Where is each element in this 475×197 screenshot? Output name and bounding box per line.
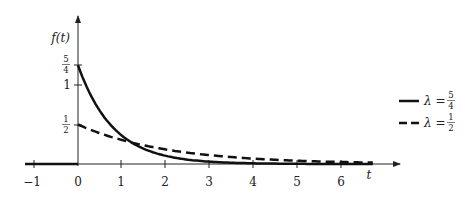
legend-item-lambda-1-2: λ = 1 2 bbox=[399, 112, 455, 133]
legend: λ = 5 4 λ = 1 2 bbox=[399, 90, 455, 133]
y-axis-label: f(t) bbox=[50, 31, 70, 45]
y-tick-label-1-2: 1 2 bbox=[62, 114, 70, 135]
series-lambda-1-2 bbox=[78, 125, 373, 163]
x-tick-label: 1 bbox=[117, 175, 125, 189]
series-lambda-5-4 bbox=[78, 65, 373, 164]
x-tick-label: 4 bbox=[249, 175, 257, 189]
x-axis-label: t bbox=[367, 168, 372, 182]
y-tick-label-1: 1 bbox=[63, 78, 71, 92]
legend-item-lambda-5-4: λ = 5 4 bbox=[399, 90, 455, 111]
x-tick-labels: −1 0 1 2 3 4 5 6 bbox=[23, 175, 345, 189]
svg-text:4: 4 bbox=[63, 65, 68, 75]
svg-text:4: 4 bbox=[448, 101, 453, 111]
svg-text:1: 1 bbox=[63, 114, 68, 124]
svg-text:λ =: λ = bbox=[423, 94, 445, 108]
svg-text:5: 5 bbox=[63, 54, 68, 64]
x-tick-label: 2 bbox=[161, 175, 169, 189]
svg-text:2: 2 bbox=[63, 125, 68, 135]
x-tick-label: 5 bbox=[293, 175, 301, 189]
exponential-density-chart: −1 0 1 2 3 4 5 6 t f(t) 5 4 1 1 2 λ = 5 … bbox=[0, 0, 475, 197]
x-tick-label: 6 bbox=[337, 175, 345, 189]
svg-text:λ =: λ = bbox=[423, 116, 445, 130]
x-tick-label: 3 bbox=[205, 175, 213, 189]
svg-text:5: 5 bbox=[448, 90, 453, 100]
svg-text:2: 2 bbox=[448, 123, 453, 133]
svg-text:1: 1 bbox=[448, 112, 453, 122]
y-tick-label-5-4: 5 4 bbox=[62, 54, 70, 75]
x-tick-label: 0 bbox=[74, 175, 82, 189]
x-tick-label: −1 bbox=[23, 175, 41, 189]
